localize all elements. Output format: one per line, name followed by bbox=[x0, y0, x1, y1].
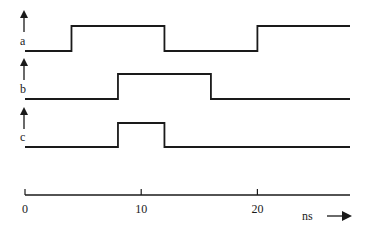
axis-tick-label: 20 bbox=[251, 202, 263, 216]
up-arrow-icon bbox=[20, 58, 28, 80]
signal-label: a bbox=[20, 34, 26, 48]
time-axis: 01020 ns bbox=[22, 189, 352, 223]
up-arrow-icon bbox=[20, 107, 28, 129]
waveform bbox=[25, 26, 350, 51]
up-arrow-icon bbox=[20, 10, 28, 32]
signal-b: b bbox=[20, 58, 350, 99]
axis-tick-label: 10 bbox=[135, 202, 147, 216]
waveform bbox=[25, 74, 350, 99]
signal-label: c bbox=[20, 130, 25, 144]
waveform bbox=[25, 123, 350, 147]
axis-direction-arrow-icon bbox=[327, 211, 352, 221]
axis-tick-label: 0 bbox=[22, 202, 28, 216]
signal-label: b bbox=[20, 82, 26, 96]
timing-diagram: abc 01020 ns bbox=[0, 0, 368, 236]
axis-unit-label: ns bbox=[302, 209, 313, 223]
signal-c: c bbox=[20, 107, 350, 147]
signal-a: a bbox=[20, 10, 350, 51]
